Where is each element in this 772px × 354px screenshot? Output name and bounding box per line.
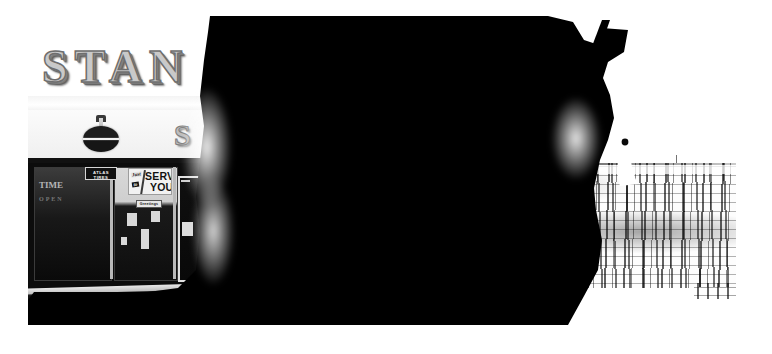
atlas-tires-sign: ATLAS TIRES <box>85 167 117 180</box>
lens-flare-secondary <box>548 80 618 210</box>
poster-word-to: to <box>132 182 140 188</box>
serve-you-poster: Just to SERVE YOU <box>128 168 172 195</box>
atlas-tires-line2: TIRES <box>86 175 116 180</box>
poster-word-just: Just <box>131 171 142 177</box>
photograph: STAN TIME OPEN ATLAS TIR <box>28 0 736 325</box>
placard-2 <box>151 211 160 222</box>
print-corner-texture <box>694 283 736 299</box>
hook-highlight-icon <box>614 98 644 188</box>
placard-4 <box>121 237 127 245</box>
placard-3 <box>141 229 149 249</box>
window-mullion <box>173 167 176 279</box>
roundel-emblem-icon <box>83 126 119 152</box>
window-ghost-lettering-secondary: OPEN <box>39 196 64 202</box>
window-ghost-lettering: TIME <box>39 180 63 190</box>
window-mullion <box>110 167 113 279</box>
lens-flare <box>178 84 242 294</box>
photo-frame: STAN TIME OPEN ATLAS TIR <box>0 0 772 354</box>
poster-word-you: YOU <box>150 182 172 194</box>
display-window-left: TIME OPEN <box>34 167 112 281</box>
distant-post-6 <box>676 155 677 163</box>
placard-1 <box>127 213 137 226</box>
small-window-banner: Greetings <box>136 200 162 208</box>
